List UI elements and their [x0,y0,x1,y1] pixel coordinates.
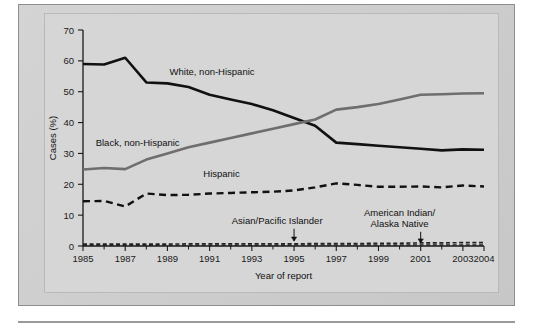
series-label-0: White, non-Hispanic [170,66,255,77]
x-tick-label-1985: 1985 [72,253,93,264]
x-axis-ticks: 1985198719891991199319951997199920012003… [72,246,494,264]
x-tick-label-1993: 1993 [241,253,262,264]
annotation-arrow-head-asian-pacific-islander [291,237,296,241]
series-line-3 [83,243,484,245]
figure-panel: 010203040506070 198519871989199119931995… [18,4,515,306]
series-label-2: Hispanic [203,168,240,179]
x-tick-label-1999: 1999 [368,253,389,264]
annotation-text-american-indian-alaska-native-0: American Indian/ [364,207,436,218]
series-line-1 [83,93,484,169]
line-chart: 010203040506070 198519871989199119931995… [45,14,498,292]
y-tick-label-60: 60 [63,55,74,66]
y-tick-label-40: 40 [63,117,74,128]
y-tick-label-70: 70 [63,25,74,36]
annotation-asian-pacific-islander: Asian/Pacific Islander [232,215,323,241]
y-axis-ticks: 010203040506070 [63,25,83,252]
x-tick-label-1989: 1989 [157,253,178,264]
x-tick-label-1991: 1991 [199,253,220,264]
series-inline-labels: White, non-HispanicBlack, non-HispanicHi… [96,66,255,179]
series-line-2 [83,183,484,206]
y-tick-label-10: 10 [63,210,74,221]
y-axis-title: Cases (%) [47,116,58,160]
x-axis-title: Year of report [255,270,313,281]
annotation-text-american-indian-alaska-native-1: Alaska Native [371,218,429,229]
x-tick-label-2004: 2004 [473,253,494,264]
chart-annotations: Asian/Pacific IslanderAmerican Indian/Al… [232,207,436,243]
annotation-text-asian-pacific-islander-0: Asian/Pacific Islander [232,215,323,226]
y-tick-label-30: 30 [63,148,74,159]
annotation-american-indian-alaska-native: American Indian/Alaska Native [364,207,436,243]
x-tick-label-1997: 1997 [326,253,347,264]
y-tick-label-20: 20 [63,179,74,190]
x-tick-label-1987: 1987 [115,253,136,264]
figure-bottom-rule [18,321,515,323]
x-tick-label-2003: 2003 [452,253,473,264]
series-label-1: Black, non-Hispanic [96,137,180,148]
figure-wrapper: 010203040506070 198519871989199119931995… [0,0,533,331]
y-tick-label-50: 50 [63,86,74,97]
plot-frame: 010203040506070 198519871989199119931995… [44,13,499,293]
x-tick-label-2001: 2001 [410,253,431,264]
y-tick-label-0: 0 [69,241,74,252]
x-tick-label-1995: 1995 [283,253,304,264]
